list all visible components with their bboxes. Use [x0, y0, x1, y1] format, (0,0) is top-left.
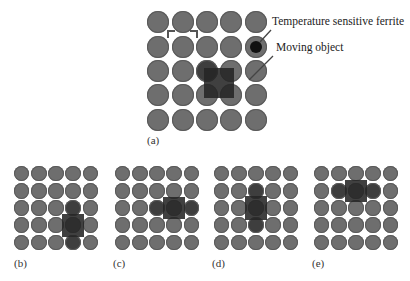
ferrite-cell — [31, 183, 46, 198]
ferrite-cell — [184, 200, 199, 215]
ferrite-cell — [31, 235, 46, 250]
ferrite-cell — [331, 217, 346, 232]
ferrite-cell — [149, 183, 164, 198]
ferrite-cell — [231, 166, 246, 181]
ferrite-cell — [283, 235, 298, 250]
ferrite-cell — [48, 235, 63, 250]
ferrite-cell — [115, 217, 130, 232]
ferrite-cell — [214, 235, 229, 250]
ferrite-cell — [166, 235, 181, 250]
ferrite-cell — [365, 166, 380, 181]
ferrite-cell — [265, 200, 280, 215]
ferrite-cell — [184, 183, 199, 198]
ferrite-cell — [231, 183, 246, 198]
ferrite-cell — [365, 235, 380, 250]
ferrite-cell — [132, 200, 147, 215]
ferrite-cell — [132, 217, 147, 232]
ferrite-cell — [184, 235, 199, 250]
ferrite-cell — [65, 183, 80, 198]
moving-object — [345, 180, 367, 202]
ferrite-cell — [283, 183, 298, 198]
ferrite-cell — [115, 166, 130, 181]
moving-object — [245, 196, 267, 219]
ferrite-cell — [265, 217, 280, 232]
ferrite-cell — [83, 217, 98, 232]
ferrite-cell — [283, 200, 298, 215]
ferrite-cell — [231, 200, 246, 215]
ferrite-cell — [115, 183, 130, 198]
ferrite-cell — [265, 235, 280, 250]
ferrite-cell — [83, 235, 98, 250]
ferrite-cell — [383, 217, 398, 232]
ferrite-cell — [149, 217, 164, 232]
ferrite-cell — [31, 166, 46, 181]
ferrite-cell — [166, 166, 181, 181]
ferrite-cell — [365, 200, 380, 215]
ferrite-cell — [283, 217, 298, 232]
ferrite-cell — [149, 166, 164, 181]
ferrite-cell — [48, 183, 63, 198]
ferrite-cell — [184, 217, 199, 232]
ferrite-cell — [348, 217, 363, 232]
ferrite-cell — [31, 217, 46, 232]
ferrite-cell — [383, 183, 398, 198]
ferrite-cell — [248, 166, 263, 181]
ferrite-cell — [314, 200, 329, 215]
ferrite-cell — [132, 166, 147, 181]
ferrite-cell — [184, 166, 199, 181]
ferrite-cell — [314, 235, 329, 250]
ferrite-cell — [365, 183, 380, 198]
ferrite-cell — [166, 217, 181, 232]
moving-object — [163, 197, 185, 219]
ferrite-cell — [132, 183, 147, 198]
panel-e — [313, 165, 399, 251]
ferrite-cell — [149, 200, 164, 215]
ferrite-cell — [314, 217, 329, 232]
ferrite-cell — [314, 166, 329, 181]
ferrite-cell — [14, 183, 29, 198]
ferrite-cell — [265, 166, 280, 181]
ferrite-cell — [331, 183, 346, 198]
ferrite-cell — [132, 235, 147, 250]
ferrite-cell — [265, 183, 280, 198]
ferrite-cell — [331, 200, 346, 215]
moving-object — [62, 214, 84, 237]
ferrite-cell — [14, 166, 29, 181]
ferrite-cell — [149, 235, 164, 250]
ferrite-cell — [115, 200, 130, 215]
ferrite-cell — [231, 217, 246, 232]
ferrite-cell — [383, 235, 398, 250]
ferrite-cell — [83, 200, 98, 215]
ferrite-cell — [214, 183, 229, 198]
ferrite-cell — [348, 200, 363, 215]
ferrite-cell — [314, 183, 329, 198]
ferrite-cell — [166, 183, 181, 198]
ferrite-cell — [365, 217, 380, 232]
panel-b — [13, 165, 99, 251]
ferrite-cell — [14, 235, 29, 250]
ferrite-cell — [348, 166, 363, 181]
ferrite-cell — [383, 200, 398, 215]
ferrite-cell — [65, 166, 80, 181]
ferrite-cell — [331, 166, 346, 181]
ferrite-cell — [14, 217, 29, 232]
ferrite-cell — [48, 166, 63, 181]
ferrite-cell — [65, 235, 80, 250]
ferrite-cell — [283, 166, 298, 181]
ferrite-cell — [83, 166, 98, 181]
ferrite-cell — [83, 183, 98, 198]
ferrite-cell — [214, 166, 229, 181]
ferrite-cell — [214, 217, 229, 232]
ferrite-cell — [231, 235, 246, 250]
ferrite-cell — [48, 217, 63, 232]
ferrite-cell — [383, 166, 398, 181]
ferrite-cell — [248, 235, 263, 250]
panel-c — [114, 165, 200, 251]
panel-e-label: (e) — [312, 257, 324, 269]
ferrite-cell — [248, 217, 263, 232]
panel-b-label: (b) — [14, 257, 27, 269]
panel-d — [213, 165, 299, 251]
ferrite-cell — [115, 235, 130, 250]
panel-c-label: (c) — [113, 257, 125, 269]
ferrite-cell — [31, 200, 46, 215]
